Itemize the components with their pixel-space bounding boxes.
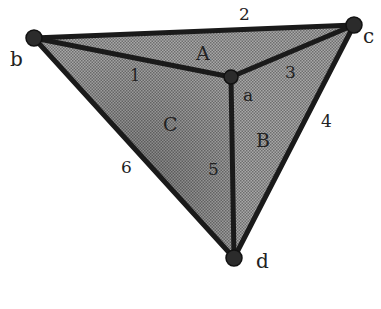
face-label-C: C	[163, 113, 178, 135]
edge-label-6: 6	[121, 157, 132, 177]
edge-label-3: 3	[285, 62, 296, 82]
vertex-a	[224, 70, 238, 84]
edge-5	[231, 77, 234, 258]
vertex-label-b: b	[10, 47, 23, 71]
vertex-label-a: a	[243, 85, 253, 105]
planar-graph-diagram: b c a d 1 2 3 4 5 6 A B C	[0, 0, 381, 309]
vertex-b	[26, 30, 42, 46]
edge-label-4: 4	[321, 111, 332, 131]
edge-label-1: 1	[130, 66, 140, 85]
vertex-d	[226, 250, 242, 266]
edge-label-2: 2	[239, 4, 250, 24]
vertex-label-c: c	[363, 24, 374, 48]
edge-label-5: 5	[208, 159, 219, 179]
face-label-B: B	[256, 129, 270, 151]
vertex-label-d: d	[256, 249, 269, 273]
face-label-A: A	[195, 42, 210, 64]
vertex-c	[346, 17, 362, 33]
